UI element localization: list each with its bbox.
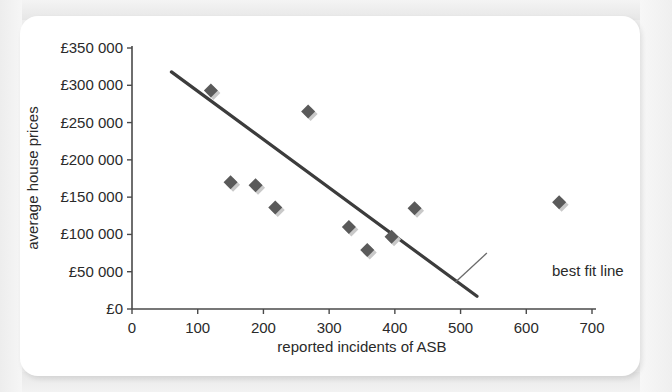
x-axis-tick-label: 200: [251, 319, 276, 336]
x-axis-tick-labels: 0100200300400500600700: [128, 319, 605, 336]
y-axis-tick-label: £100 000: [60, 225, 123, 242]
scatter-plot: £0£50 000£100 000£150 000£200 000£250 00…: [0, 0, 672, 392]
x-axis-tick-label: 0: [128, 319, 136, 336]
y-axis-tick-label: £250 000: [60, 114, 123, 131]
y-axis-title: average house prices: [24, 106, 41, 249]
plot-axes: [127, 46, 596, 314]
x-axis-title: reported incidents of ASB: [277, 338, 446, 355]
y-axis-tick-label: £350 000: [60, 39, 123, 56]
annotation-leader-line: [455, 253, 487, 282]
y-axis-tick-label: £150 000: [60, 188, 123, 205]
x-axis-tick-label: 300: [317, 319, 342, 336]
trend-line-path: [171, 72, 477, 296]
leader-line-path: [455, 253, 487, 282]
scanned-page: £0£50 000£100 000£150 000£200 000£250 00…: [0, 0, 672, 392]
y-axis-tick-label: £300 000: [60, 76, 123, 93]
x-axis-tick-label: 700: [579, 319, 604, 336]
y-axis-tick-label: £0: [106, 300, 123, 317]
best-fit-line-annotation: best fit line: [552, 262, 624, 279]
y-axis-tick-label: £50 000: [69, 263, 123, 280]
y-axis-tick-labels: £0£50 000£100 000£150 000£200 000£250 00…: [60, 39, 123, 317]
x-axis-tick-label: 600: [514, 319, 539, 336]
y-axis-tick-label: £200 000: [60, 151, 123, 168]
best-fit-line: [171, 72, 477, 296]
x-axis-tick-label: 400: [382, 319, 407, 336]
data-point-markers: [204, 84, 569, 260]
x-axis-tick-label: 500: [448, 319, 473, 336]
x-axis-tick-label: 100: [185, 319, 210, 336]
